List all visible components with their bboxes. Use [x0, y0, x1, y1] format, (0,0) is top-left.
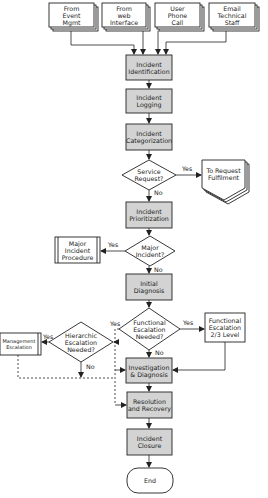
service-yes-label: Yes	[182, 165, 192, 172]
closure-label: Incident Closure	[127, 429, 172, 455]
major-no-label: No	[154, 266, 163, 273]
functional-yes-right-label: Yes	[183, 319, 193, 326]
source-phone-label: User Phone Call	[155, 3, 200, 27]
management-escalation-label: Management Escalation	[0, 333, 38, 355]
functional-escalation-level-label: Functional Escalation 2/3 Level	[205, 313, 245, 342]
initial-diagnosis-label: Initial Diagnosis	[126, 274, 172, 300]
service-no-label: No	[154, 189, 163, 196]
hierarchic-yes-label: Yes	[43, 333, 53, 340]
source-event-label: From Event Mgmt	[49, 3, 94, 27]
functional-no-label: No	[155, 349, 164, 356]
investigation-label: Investigation & Diagnosis	[126, 358, 172, 383]
identification-label: Incident Identification	[126, 55, 172, 80]
major-incident-label: Major Incident?	[125, 236, 175, 266]
functional-escalation-label: Functional Escalation Needed?	[119, 308, 180, 350]
major-yes-label: Yes	[108, 241, 118, 248]
resolution-label: Resolution and Recovery	[127, 392, 172, 418]
logging-label: Incident Logging	[126, 89, 172, 113]
major-incident-procedure-label: Major Incident Procedure	[58, 237, 97, 263]
source-connectors	[71, 31, 226, 54]
hierarchic-escalation-label: Hierarchic Escalation Needed?	[49, 322, 113, 362]
prioritization-label: Incident Prioritization	[126, 202, 172, 228]
hierarchic-no-label: No	[86, 363, 95, 370]
source-web-label: From web Interface	[102, 3, 146, 27]
service-request-label: Service Request?	[122, 160, 176, 190]
source-email-label: Email Technical Staff	[209, 3, 255, 27]
functional-yes-left-label: Yes	[110, 320, 120, 327]
categorization-label: Incident Categorization	[126, 124, 172, 150]
end-label: End	[127, 468, 173, 493]
request-fulfilment-label: To Request Fulfilment	[202, 160, 245, 188]
